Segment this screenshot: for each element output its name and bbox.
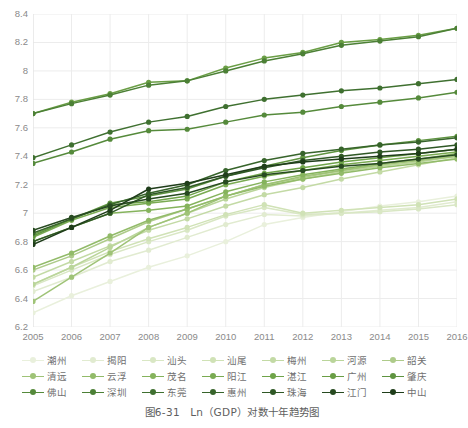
legend-label: 佛山 bbox=[47, 387, 67, 398]
legend-marker-icon bbox=[322, 388, 344, 397]
data-point bbox=[300, 51, 305, 56]
x-axis-tick: 2011 bbox=[254, 331, 274, 343]
legend-row: 佛山深圳东莞惠州珠海江门中山 bbox=[0, 384, 464, 400]
legend-item-佛山[interactable]: 佛山 bbox=[22, 387, 82, 398]
legend-label: 中山 bbox=[407, 387, 427, 398]
legend-item-阳江[interactable]: 阳江 bbox=[202, 371, 262, 382]
data-point bbox=[262, 179, 267, 184]
data-point bbox=[416, 81, 421, 86]
data-point bbox=[146, 196, 151, 201]
legend-item-中山[interactable]: 中山 bbox=[382, 387, 442, 398]
x-axis: 2005200620072008200920102011201220132014… bbox=[33, 331, 457, 347]
legend-item-江门[interactable]: 江门 bbox=[322, 387, 382, 398]
data-point bbox=[339, 157, 344, 162]
legend-item-潮州[interactable]: 潮州 bbox=[22, 355, 82, 366]
legend-marker-icon bbox=[322, 372, 344, 381]
legend-item-珠海[interactable]: 珠海 bbox=[262, 387, 322, 398]
data-point bbox=[262, 202, 267, 207]
data-point bbox=[262, 212, 267, 217]
legend-label: 肇庆 bbox=[407, 371, 427, 382]
legend-marker-icon bbox=[202, 388, 224, 397]
legend-item-汕头[interactable]: 汕头 bbox=[142, 355, 202, 366]
legend-marker-icon bbox=[142, 372, 164, 381]
data-point bbox=[185, 78, 190, 83]
data-point bbox=[377, 85, 382, 90]
x-axis-tick: 2005 bbox=[22, 331, 43, 343]
data-point bbox=[146, 120, 151, 125]
legend-item-揭阳[interactable]: 揭阳 bbox=[82, 355, 142, 366]
y-axis-tick: 7.4 bbox=[15, 152, 28, 162]
legend-label: 云浮 bbox=[107, 371, 127, 382]
legend-label: 惠州 bbox=[227, 387, 247, 398]
legend-item-东莞[interactable]: 东莞 bbox=[142, 387, 202, 398]
series-line bbox=[33, 202, 457, 292]
data-point bbox=[185, 253, 190, 258]
data-point bbox=[33, 289, 36, 294]
legend-marker-icon bbox=[262, 356, 284, 365]
data-point bbox=[185, 225, 190, 230]
y-axis-tick: 8.2 bbox=[15, 38, 28, 48]
x-axis-tick: 2006 bbox=[61, 331, 82, 343]
legend-item-茂名[interactable]: 茂名 bbox=[142, 371, 202, 382]
legend-item-肇庆[interactable]: 肇庆 bbox=[382, 371, 442, 382]
data-point bbox=[454, 77, 457, 82]
chart-legend: 潮州揭阳汕头汕尾梅州河源韶关清远云浮茂名阳江湛江广州肇庆佛山深圳东莞惠州珠海江门… bbox=[0, 352, 464, 400]
x-axis-tick: 2016 bbox=[446, 331, 467, 343]
data-point bbox=[33, 155, 36, 160]
data-point bbox=[262, 158, 267, 163]
legend-label: 深圳 bbox=[107, 387, 127, 398]
legend-item-韶关[interactable]: 韶关 bbox=[382, 355, 442, 366]
data-point bbox=[185, 191, 190, 196]
data-point bbox=[185, 114, 190, 119]
legend-marker-icon bbox=[22, 372, 44, 381]
data-point bbox=[416, 151, 421, 156]
data-point bbox=[185, 127, 190, 132]
data-point bbox=[146, 218, 151, 223]
legend-label: 湛江 bbox=[287, 371, 307, 382]
legend-label: 阳江 bbox=[227, 371, 247, 382]
data-point bbox=[107, 137, 112, 142]
data-point bbox=[300, 110, 305, 115]
legend-label: 珠海 bbox=[287, 387, 307, 398]
data-point bbox=[69, 259, 74, 264]
data-point bbox=[262, 222, 267, 227]
data-point bbox=[223, 222, 228, 227]
data-point bbox=[69, 265, 74, 270]
data-point bbox=[223, 68, 228, 73]
legend-item-云浮[interactable]: 云浮 bbox=[82, 371, 142, 382]
data-point bbox=[223, 203, 228, 208]
legend-marker-icon bbox=[382, 388, 404, 397]
legend-item-广州[interactable]: 广州 bbox=[322, 371, 382, 382]
data-point bbox=[107, 233, 112, 238]
x-axis-tick: 2009 bbox=[177, 331, 198, 343]
legend-item-惠州[interactable]: 惠州 bbox=[202, 387, 262, 398]
data-point bbox=[300, 185, 305, 190]
legend-marker-icon bbox=[202, 356, 224, 365]
data-point bbox=[262, 164, 267, 169]
data-point bbox=[454, 26, 457, 31]
legend-item-梅州[interactable]: 梅州 bbox=[262, 355, 322, 366]
data-point bbox=[185, 181, 190, 186]
data-point bbox=[377, 38, 382, 43]
data-point bbox=[185, 203, 190, 208]
data-point bbox=[300, 151, 305, 156]
data-point bbox=[416, 95, 421, 100]
data-point bbox=[223, 120, 228, 125]
data-point bbox=[107, 245, 112, 250]
y-axis-tick: 6.8 bbox=[15, 237, 28, 247]
data-point bbox=[262, 172, 267, 177]
data-point bbox=[300, 92, 305, 97]
legend-item-湛江[interactable]: 湛江 bbox=[262, 371, 322, 382]
data-point bbox=[69, 101, 74, 106]
legend-item-河源[interactable]: 河源 bbox=[322, 355, 382, 366]
data-point bbox=[454, 90, 457, 95]
data-point bbox=[223, 239, 228, 244]
legend-item-深圳[interactable]: 深圳 bbox=[82, 387, 142, 398]
data-point bbox=[223, 179, 228, 184]
x-axis-tick: 2010 bbox=[215, 331, 236, 343]
legend-item-汕尾[interactable]: 汕尾 bbox=[202, 355, 262, 366]
legend-marker-icon bbox=[262, 388, 284, 397]
data-point bbox=[339, 43, 344, 48]
legend-item-清远[interactable]: 清远 bbox=[22, 371, 82, 382]
